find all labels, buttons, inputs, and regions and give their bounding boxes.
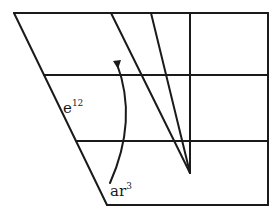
diagram-canvas	[0, 0, 278, 215]
arrowhead-icon	[113, 60, 121, 69]
label-e12: e12	[63, 101, 83, 116]
left-slanted-edge	[14, 13, 107, 205]
curved-arrow	[110, 64, 126, 183]
label-ar3-base: ar	[110, 182, 126, 200]
label-e12-base: e	[63, 99, 72, 117]
label-ar3-superscript: 3	[126, 181, 132, 191]
diagonal-line-inner	[151, 13, 190, 173]
label-ar3: ar3	[110, 184, 132, 199]
label-e12-superscript: 12	[72, 98, 83, 108]
diagonal-line-outer	[111, 13, 190, 173]
